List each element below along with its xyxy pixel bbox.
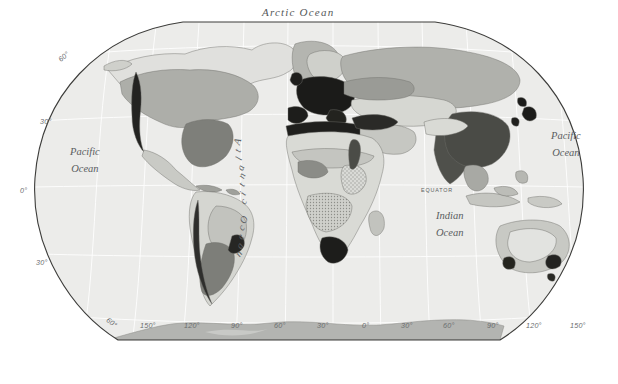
pacific-ocean-left-label: Pacific Ocean: [70, 148, 100, 173]
longitude-label: 120°: [184, 321, 200, 330]
pacific-ocean-left-line2: Ocean: [71, 165, 98, 174]
longitude-label: 90°: [487, 321, 498, 330]
latitude-label: 0°: [20, 186, 27, 195]
world-map-figure: Arctic Ocean Pacific Ocean Pacific Ocean…: [0, 0, 618, 384]
longitude-label: 30°: [401, 321, 412, 330]
longitude-label: 150°: [570, 321, 586, 330]
pacific-ocean-right-label: Pacific Ocean: [551, 132, 581, 157]
longitude-label: 30°: [317, 321, 328, 330]
atlantic-ocean-letter: i: [237, 189, 248, 196]
pacific-ocean-right-line1: Pacific: [551, 132, 581, 141]
atlantic-ocean-letter: n: [236, 171, 248, 180]
atlantic-ocean-letter: t: [236, 181, 247, 188]
longitude-label: 60°: [443, 321, 454, 330]
latitude-label: 30°: [36, 258, 47, 267]
pacific-ocean-right-line2: Ocean: [552, 149, 579, 158]
pacific-ocean-left-line1: Pacific: [70, 148, 100, 157]
indian-ocean-label: Indian Ocean: [436, 212, 463, 237]
equator-label: EQUATOR: [421, 187, 453, 193]
atlantic-ocean-label: AtlanticOcean: [236, 136, 276, 256]
longitude-label: 90°: [231, 321, 242, 330]
longitude-label: 120°: [526, 321, 542, 330]
latitude-label: 30°: [40, 117, 51, 126]
indian-ocean-line1: Indian: [436, 212, 463, 221]
indian-ocean-line2: Ocean: [436, 229, 463, 238]
longitude-label: 60°: [274, 321, 285, 330]
atlantic-ocean-letter: c: [237, 197, 249, 206]
longitude-label: 150°: [140, 321, 156, 330]
longitude-label: 0°: [362, 321, 369, 330]
